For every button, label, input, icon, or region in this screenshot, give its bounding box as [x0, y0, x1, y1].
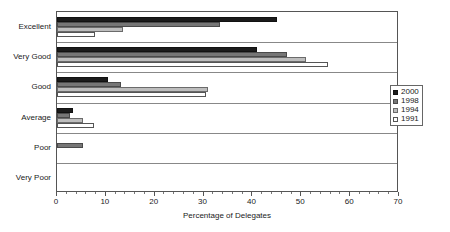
- x-tick-minor: [124, 192, 125, 194]
- legend-swatch-icon: [393, 99, 398, 104]
- x-tick-major: [203, 192, 204, 196]
- legend-item[interactable]: 1991: [393, 115, 419, 123]
- legend: 2000199819941991: [390, 85, 423, 126]
- legend-item[interactable]: 1994: [393, 106, 419, 114]
- x-tick-minor: [291, 192, 292, 194]
- x-tick-minor: [339, 192, 340, 194]
- y-axis-category-label: Good: [0, 82, 51, 91]
- legend-swatch-icon: [393, 90, 398, 95]
- legend-swatch-icon: [393, 117, 398, 122]
- x-tick-minor: [232, 192, 233, 194]
- x-tick-label: 20: [139, 197, 169, 206]
- y-axis-category-label: Very Good: [0, 52, 51, 61]
- x-tick-minor: [163, 192, 164, 194]
- x-tick-minor: [95, 192, 96, 194]
- plot-area: ExcellentVery GoodGoodAveragePoorVery Po…: [56, 11, 398, 192]
- x-tick-minor: [85, 192, 86, 194]
- x-tick-minor: [330, 192, 331, 194]
- x-tick-major: [251, 192, 252, 196]
- x-tick-minor: [320, 192, 321, 194]
- x-tick-label: 10: [90, 197, 120, 206]
- category-row: Good: [57, 72, 397, 102]
- x-tick-label: 40: [236, 197, 266, 206]
- x-tick-minor: [183, 192, 184, 194]
- x-tick-minor: [173, 192, 174, 194]
- x-tick-minor: [271, 192, 272, 194]
- y-axis-category-label: Poor: [0, 143, 51, 152]
- y-axis-category-label: Average: [0, 113, 51, 122]
- x-tick-minor: [242, 192, 243, 194]
- category-row: Average: [57, 103, 397, 133]
- x-tick-minor: [378, 192, 379, 194]
- x-tick-minor: [359, 192, 360, 194]
- y-axis-category-label: Excellent: [0, 22, 51, 31]
- x-tick-minor: [144, 192, 145, 194]
- x-tick-minor: [212, 192, 213, 194]
- legend-label: 1998: [401, 97, 419, 105]
- legend-swatch-icon: [393, 108, 398, 113]
- x-tick-minor: [310, 192, 311, 194]
- x-tick-minor: [222, 192, 223, 194]
- x-tick-minor: [66, 192, 67, 194]
- x-tick-label: 50: [285, 197, 315, 206]
- x-tick-minor: [134, 192, 135, 194]
- x-tick-minor: [193, 192, 194, 194]
- legend-label: 2000: [401, 88, 419, 96]
- x-tick-label: 30: [188, 197, 218, 206]
- category-row: Very Poor: [57, 163, 397, 193]
- x-tick-label: 60: [334, 197, 364, 206]
- x-tick-minor: [369, 192, 370, 194]
- x-tick-minor: [115, 192, 116, 194]
- y-axis-category-label: Very Poor: [0, 173, 51, 182]
- category-row: Very Good: [57, 42, 397, 72]
- x-tick-major: [349, 192, 350, 196]
- x-tick-major: [154, 192, 155, 196]
- x-tick-minor: [388, 192, 389, 194]
- x-tick-label: 70: [383, 197, 413, 206]
- x-tick-major: [398, 192, 399, 196]
- x-tick-label: 0: [41, 197, 71, 206]
- bar-1991-good: [57, 92, 206, 97]
- legend-item[interactable]: 2000: [393, 88, 419, 96]
- category-row: Poor: [57, 133, 397, 163]
- x-tick-major: [105, 192, 106, 196]
- x-tick-minor: [281, 192, 282, 194]
- x-axis-title: Percentage of Delegates: [56, 211, 398, 220]
- legend-label: 1991: [401, 115, 419, 123]
- category-row: Excellent: [57, 12, 397, 42]
- bar-1998-poor: [57, 143, 83, 148]
- x-tick-minor: [76, 192, 77, 194]
- legend-item[interactable]: 1998: [393, 97, 419, 105]
- bar-1991-average: [57, 123, 94, 128]
- x-axis: Percentage of Delegates 010203040506070: [56, 192, 398, 232]
- bar-chart: ExcellentVery GoodGoodAveragePoorVery Po…: [0, 0, 450, 232]
- x-tick-major: [56, 192, 57, 196]
- x-tick-major: [300, 192, 301, 196]
- bar-1991-excellent: [57, 32, 95, 37]
- bar-1991-very-good: [57, 62, 328, 67]
- legend-label: 1994: [401, 106, 419, 114]
- x-tick-minor: [261, 192, 262, 194]
